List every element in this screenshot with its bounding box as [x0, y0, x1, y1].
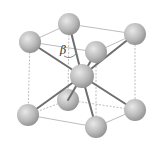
atom-center — [70, 64, 94, 88]
atom-bottom-front-left — [17, 104, 39, 126]
atom-bottom-front-right — [85, 116, 107, 138]
atom-bottom-back-right — [124, 99, 146, 121]
angle-beta-label: β — [60, 44, 66, 57]
atom-top-back-left — [58, 13, 80, 35]
atom-top-front-right — [85, 41, 107, 63]
bcc-crystal-diagram — [0, 0, 158, 148]
atom-top-back-right — [124, 23, 146, 45]
atom-top-front-left — [19, 31, 41, 53]
